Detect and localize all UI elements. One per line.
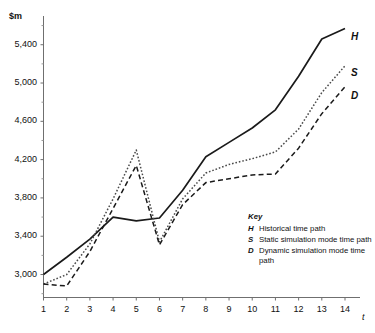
- legend-entry-d: DDynamic simulation mode time path: [248, 246, 373, 267]
- legend-entry-description: Historical time path: [259, 224, 373, 235]
- legend-title: Key: [248, 212, 373, 223]
- line-chart: $m 3,0003,4003,8004,2004,6005,0005,400 1…: [0, 0, 375, 333]
- legend-entry-key: H: [248, 224, 259, 235]
- legend-entry-s: SStatic simulation mode time path: [248, 235, 373, 246]
- legend-entries: HHistorical time pathSStatic simulation …: [248, 224, 373, 267]
- legend-entry-key: D: [248, 246, 259, 257]
- series-end-label-h: H: [351, 31, 358, 42]
- plot-area: [0, 0, 375, 333]
- series-end-label-s: S: [351, 67, 358, 78]
- series-end-label-d: D: [351, 90, 358, 101]
- legend-entry-description: Static simulation mode time path: [259, 235, 373, 246]
- legend-entry-key: S: [248, 235, 259, 246]
- legend: Key HHistorical time pathSStatic simulat…: [248, 212, 373, 267]
- legend-entry-h: HHistorical time path: [248, 224, 373, 235]
- legend-entry-description: Dynamic simulation mode time path: [259, 246, 373, 267]
